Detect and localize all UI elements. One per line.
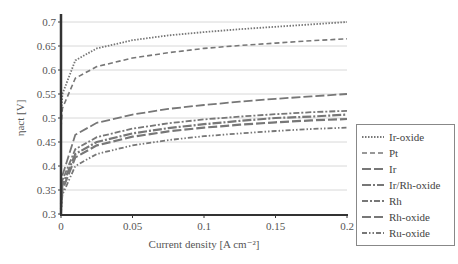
y-tick-label: 0.4: [42, 160, 56, 172]
y-tick-label: 0.3: [42, 208, 56, 220]
series-line-pt: [61, 39, 347, 128]
y-tick-label: 0.6: [42, 64, 56, 76]
x-tick-label: 0.05: [123, 220, 143, 232]
x-tick-label: 0.1: [197, 220, 211, 232]
series-line-ru-oxide: [61, 128, 347, 214]
legend-label: Pt: [389, 147, 398, 159]
legend-item: Pt: [361, 145, 450, 161]
legend-label: Ir-oxide: [389, 131, 424, 143]
legend-item: Rh: [361, 193, 450, 209]
legend-line-swatch-icon: [361, 148, 385, 158]
legend-label: Ru-oxide: [389, 227, 430, 239]
legend-item: Ir-oxide: [361, 129, 450, 145]
legend-item: Ir/Rh-oxide: [361, 177, 450, 193]
legend-item: Ir: [361, 161, 450, 177]
legend-item: Rh-oxide: [361, 209, 450, 225]
y-tick-label: 0.5: [42, 112, 56, 124]
legend-line-swatch-icon: [361, 132, 385, 142]
series-line-rh-oxide: [61, 119, 347, 209]
x-tick-label: 0.2: [340, 220, 354, 232]
legend-line-swatch-icon: [361, 180, 385, 190]
x-tick-label: 0: [58, 220, 64, 232]
x-tick-label: 0.15: [266, 220, 286, 232]
axes: [60, 14, 348, 215]
legend-line-swatch-icon: [361, 164, 385, 174]
grid-lines: [61, 22, 347, 190]
y-tick-label: 0.45: [37, 136, 57, 148]
y-tick-label: 0.7: [42, 16, 56, 28]
legend: Ir-oxidePtIrIr/Rh-oxideRhRh-oxideRu-oxid…: [356, 124, 455, 246]
legend-line-swatch-icon: [361, 196, 385, 206]
legend-line-swatch-icon: [361, 228, 385, 238]
x-tick-labels: 00.050.10.150.2: [58, 215, 354, 232]
y-axis-title: ηact [V]: [14, 100, 26, 137]
y-tick-label: 0.65: [37, 40, 57, 52]
legend-label: Ir/Rh-oxide: [389, 179, 440, 191]
legend-label: Rh: [389, 195, 402, 207]
legend-line-swatch-icon: [361, 212, 385, 222]
y-tick-labels: 0.30.350.40.450.50.550.60.650.7: [37, 16, 61, 220]
series-line-ir: [61, 94, 347, 200]
legend-label: Rh-oxide: [389, 211, 430, 223]
legend-item: Ru-oxide: [361, 225, 450, 241]
y-tick-label: 0.55: [37, 88, 57, 100]
x-axis-title: Current density [A cm⁻²]: [149, 238, 260, 250]
y-tick-label: 0.35: [37, 184, 57, 196]
legend-label: Ir: [389, 163, 396, 175]
